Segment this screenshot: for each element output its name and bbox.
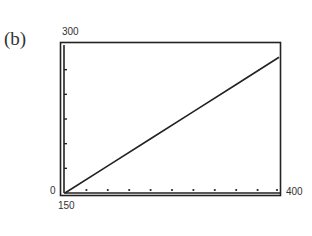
- x-ticks: [85, 189, 278, 191]
- data-line: [65, 57, 279, 193]
- plot-area: [0, 0, 312, 236]
- plot-frame: [61, 43, 281, 196]
